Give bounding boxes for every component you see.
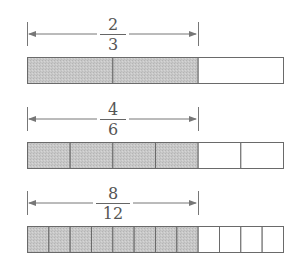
shaded-part: [113, 143, 156, 169]
fraction-label-four-sixths: 4 6: [97, 101, 129, 138]
fraction-label-eight-twelfths: 8 12: [93, 185, 133, 222]
unshaded-part: [241, 227, 262, 253]
unshaded-part: [262, 227, 283, 253]
shaded-part: [49, 227, 70, 253]
shaded-part: [28, 58, 113, 84]
unshaded-part: [198, 227, 219, 253]
shaded-part: [28, 227, 49, 253]
denominator: 3: [100, 36, 126, 53]
unshaded-part: [198, 58, 283, 84]
unshaded-part: [198, 143, 241, 169]
numerator: 4: [100, 101, 126, 118]
equivalent-fractions-diagram: 2 3 4 6 8 12: [0, 0, 299, 262]
fraction-label-two-thirds: 2 3: [97, 16, 129, 53]
shaded-part: [92, 227, 113, 253]
shaded-part: [156, 227, 177, 253]
shaded-part: [28, 143, 71, 169]
denominator: 12: [96, 205, 130, 222]
numerator: 8: [96, 185, 130, 202]
denominator: 6: [100, 121, 126, 138]
shaded-part: [70, 143, 113, 169]
shaded-part: [134, 227, 155, 253]
shaded-part: [113, 227, 134, 253]
shaded-part: [113, 58, 198, 84]
shaded-part: [177, 227, 198, 253]
fraction-bars-canvas: [0, 0, 299, 262]
numerator: 2: [100, 16, 126, 33]
shaded-part: [70, 227, 91, 253]
shaded-part: [156, 143, 199, 169]
unshaded-part: [241, 143, 284, 169]
unshaded-part: [220, 227, 241, 253]
